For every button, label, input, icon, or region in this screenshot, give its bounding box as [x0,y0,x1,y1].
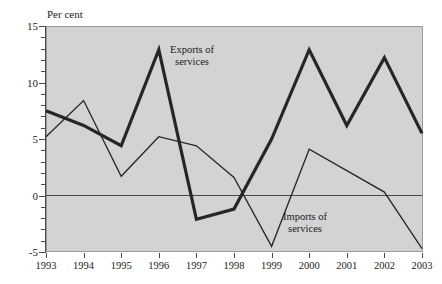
series-line-exports [46,50,422,220]
annotation-imports-label: Imports of services [283,211,327,236]
annotation-imports-line2: services [283,223,327,235]
series-lines [0,0,442,284]
annotation-exports-line2: services [170,56,214,68]
annotation-imports-line1: Imports of [283,211,327,223]
series-line-imports [46,101,422,249]
annotation-exports-line1: Exports of [170,44,214,56]
annotation-exports-label: Exports of services [170,44,214,69]
line-chart: Per cent -5051015 1993199419951996199719… [0,0,442,284]
